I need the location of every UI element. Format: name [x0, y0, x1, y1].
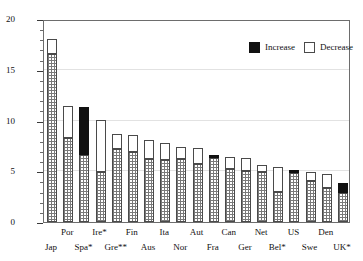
legend-item-decrease: Decrease	[304, 42, 353, 53]
bar-Belstar[interactable]	[273, 167, 283, 222]
bar-segment-decrease	[306, 172, 316, 181]
bar-Swe[interactable]	[306, 172, 316, 222]
bar-Grestarstar[interactable]	[112, 134, 122, 222]
bar-segment-decrease	[225, 157, 235, 169]
bar-segment-base	[225, 169, 235, 222]
bar-segment-decrease	[128, 135, 138, 152]
bar-Ger[interactable]	[241, 158, 251, 222]
bar-Nor[interactable]	[176, 147, 186, 222]
legend-item-increase: Increase	[249, 42, 295, 53]
bar-Fin[interactable]	[128, 135, 138, 222]
bar-Fra[interactable]	[209, 155, 219, 222]
y-tick-mark	[37, 223, 43, 224]
bar-Aus[interactable]	[144, 140, 154, 222]
bar-segment-base	[257, 172, 267, 222]
bar-Irestar[interactable]	[96, 120, 106, 223]
legend-label-increase: Increase	[265, 43, 295, 52]
bar-Den[interactable]	[322, 174, 332, 222]
bar-Ita[interactable]	[160, 143, 170, 222]
public-investment-bar-chart: Public inv. as % of Government outlays 0…	[0, 0, 363, 261]
bar-segment-increase	[338, 183, 348, 192]
bar-segment-decrease	[273, 167, 283, 191]
legend-swatch-decrease-icon	[304, 42, 315, 53]
bar-segment-decrease	[112, 134, 122, 149]
bar-segment-base	[160, 160, 170, 222]
y-tick-label: 0	[0, 218, 15, 227]
bar-segment-decrease	[160, 143, 170, 160]
bar-segment-base	[96, 172, 106, 222]
bar-segment-base	[128, 152, 138, 222]
bar-UKstar[interactable]	[338, 183, 348, 222]
bar-segment-base	[144, 159, 154, 222]
bar-Spastar[interactable]	[79, 107, 89, 222]
plot-area: Increase Decrease	[43, 20, 350, 223]
bar-segment-base	[322, 188, 332, 223]
bar-segment-base	[241, 171, 251, 222]
bar-Por[interactable]	[63, 106, 73, 222]
y-tick-label: 10	[0, 117, 15, 126]
y-tick-label: 20	[0, 15, 15, 24]
bar-segment-decrease	[47, 39, 57, 53]
bar-segment-base	[79, 155, 89, 222]
bar-segment-base	[112, 149, 122, 222]
bar-segment-increase	[79, 107, 89, 155]
bar-segment-decrease	[176, 147, 186, 159]
bar-segment-decrease	[144, 140, 154, 159]
bar-segment-base	[47, 54, 57, 222]
bar-segment-decrease	[96, 120, 106, 173]
bar-segment-decrease	[257, 165, 267, 172]
bar-segment-decrease	[63, 106, 73, 137]
bar-segment-base	[289, 173, 299, 222]
bar-segment-base	[273, 192, 283, 222]
bar-Aut[interactable]	[193, 148, 203, 222]
x-tick-label: UK*	[322, 243, 362, 252]
bar-segment-base	[306, 181, 316, 222]
bar-Net[interactable]	[257, 165, 267, 222]
bar-segment-decrease	[193, 148, 203, 164]
bar-segment-base	[193, 164, 203, 222]
y-tick-label: 5	[0, 167, 15, 176]
bar-US[interactable]	[289, 170, 299, 222]
legend-swatch-increase-icon	[249, 42, 260, 53]
bar-segment-base	[209, 158, 219, 222]
bar-Can[interactable]	[225, 157, 235, 222]
bar-segment-base	[338, 193, 348, 222]
bar-segment-decrease	[241, 158, 251, 171]
x-tick-label: Den	[306, 228, 346, 237]
legend: Increase Decrease	[249, 42, 353, 53]
bar-segment-base	[63, 138, 73, 222]
bar-segment-base	[176, 159, 186, 222]
bar-segment-decrease	[322, 174, 332, 187]
y-tick-label: 15	[0, 66, 15, 75]
legend-label-decrease: Decrease	[320, 43, 353, 52]
bar-Jap[interactable]	[47, 39, 57, 222]
